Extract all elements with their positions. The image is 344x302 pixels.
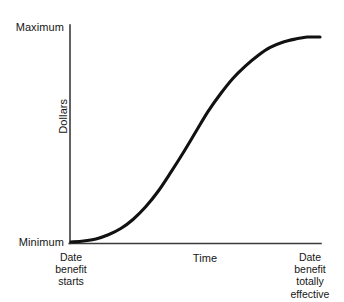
- y-axis-max-label: Maximum: [12, 21, 64, 34]
- x-axis-start-tick-label: Date benefit starts: [38, 251, 104, 288]
- x-axis-end-tick-label-line3: totally: [277, 275, 343, 287]
- x-axis-start-tick-label-line1: Date: [38, 251, 104, 263]
- x-axis-end-tick-label: Date benefit totally effective: [277, 251, 343, 300]
- x-axis-start-tick-label-line3: starts: [38, 275, 104, 287]
- chart-container: Maximum Minimum Dollars Time Date benefi…: [0, 0, 344, 302]
- x-axis-start-tick-label-line2: benefit: [38, 263, 104, 275]
- x-axis-title: Time: [175, 252, 235, 265]
- data-series-group: [71, 37, 320, 242]
- x-axis-end-tick-label-line4: effective: [277, 288, 343, 300]
- x-axis-end-tick-label-line2: benefit: [277, 263, 343, 275]
- y-axis-title: Dollars: [57, 93, 70, 139]
- x-axis-end-tick-label-line1: Date: [277, 251, 343, 263]
- y-axis-min-label: Minimum: [12, 236, 64, 249]
- benefit-s-curve: [71, 37, 320, 242]
